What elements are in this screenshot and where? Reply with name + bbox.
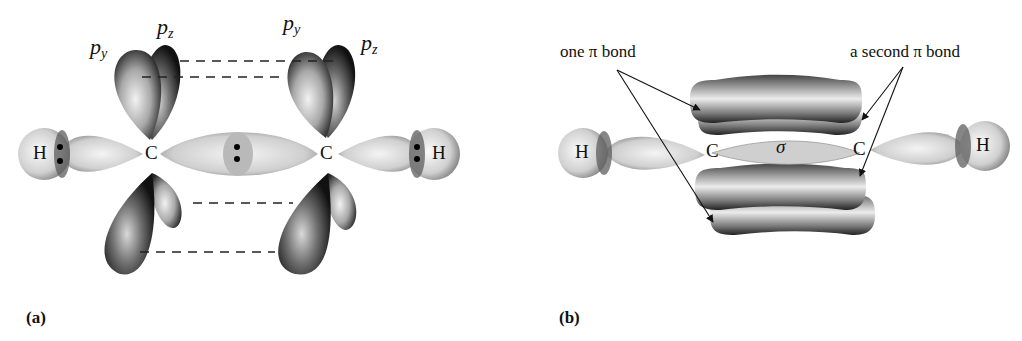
- atom-label-c-left-b: C: [706, 140, 719, 162]
- py-lobe-right-down: [278, 173, 331, 274]
- atom-label-c-right: C: [320, 142, 333, 164]
- sigma-label: σ: [776, 136, 785, 158]
- sp-lobe-left-h-b: [605, 137, 705, 170]
- pz-lobe-left-down: [151, 173, 181, 228]
- caption-a: (a): [26, 308, 46, 328]
- atom-label-h-right: H: [432, 142, 446, 164]
- pz-lobe-right-down: [326, 173, 356, 230]
- atom-label-h-left: H: [33, 142, 47, 164]
- panel-a: [18, 45, 460, 274]
- pi-lobe-front-bottom: [695, 164, 866, 211]
- sp-lobe-left-h: [60, 136, 143, 172]
- annotation-second-pi-bond: a second π bond: [850, 42, 960, 62]
- orbital-label-py-left: py: [90, 34, 107, 62]
- pi-lobe-front-top: [690, 75, 862, 123]
- atom-label-h-right-b: H: [976, 134, 990, 156]
- caption-b: (b): [559, 308, 580, 328]
- sp-lobe-right-h: [338, 136, 420, 172]
- orbital-label-py-right: py: [283, 10, 300, 38]
- h-overlap-right: [409, 130, 425, 178]
- h-overlap-right-b: [955, 124, 971, 168]
- sigma-bond: [712, 141, 860, 164]
- atom-label-c-left: C: [145, 142, 158, 164]
- atom-label-h-left-b: H: [575, 141, 589, 163]
- annotation-one-pi-bond: one π bond: [560, 42, 636, 62]
- py-lobe-left-up: [114, 50, 161, 140]
- h-overlap-left: [54, 130, 70, 178]
- sp-lobe-right-h-b: [870, 132, 965, 164]
- h-overlap-left-b: [596, 131, 612, 175]
- orbital-label-pz-right: pz: [361, 30, 377, 58]
- cc-overlap: [223, 132, 253, 176]
- orbital-label-pz-left: pz: [157, 14, 173, 42]
- atom-label-c-right-b: C: [853, 138, 866, 160]
- py-lobe-left-down: [104, 173, 154, 274]
